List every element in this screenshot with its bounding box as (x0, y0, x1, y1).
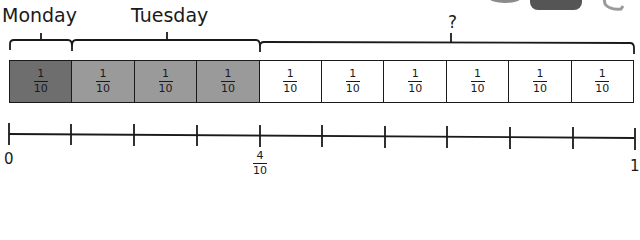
denominator: 10 (533, 83, 547, 95)
numerator: 1 (599, 68, 606, 80)
bar-cell-unknown: 110 (572, 61, 633, 102)
fraction-bar: 110 110 110 110 110 110 110 110 110 110 (9, 60, 634, 103)
denominator: 10 (159, 83, 173, 95)
bar-cell-tuesday: 110 (135, 61, 197, 102)
number-line-end-label: 1 (630, 157, 640, 175)
denominator: 10 (96, 83, 110, 95)
numerator: 1 (536, 68, 543, 80)
denominator: 10 (595, 83, 609, 95)
denominator: 10 (408, 83, 422, 95)
bar-cell-monday: 110 (10, 61, 72, 102)
numerator: 1 (37, 68, 44, 80)
numerator: 1 (162, 68, 169, 80)
bar-cell-unknown: 110 (447, 61, 509, 102)
bar-cell-unknown: 110 (260, 61, 322, 102)
number-line-mid-label: 4 10 (253, 150, 267, 177)
denominator: 10 (253, 165, 267, 177)
numerator: 4 (257, 150, 264, 162)
denominator: 10 (34, 83, 48, 95)
bar-cell-tuesday: 110 (72, 61, 134, 102)
denominator: 10 (283, 83, 297, 95)
denominator: 10 (346, 83, 360, 95)
numerator: 1 (412, 68, 419, 80)
numerator: 1 (224, 68, 231, 80)
bar-cell-unknown: 110 (384, 61, 446, 102)
denominator: 10 (221, 83, 235, 95)
number-line-start-label: 0 (4, 150, 14, 168)
denominator: 10 (471, 83, 485, 95)
numerator: 1 (349, 68, 356, 80)
bar-cell-tuesday: 110 (197, 61, 259, 102)
bar-cell-unknown: 110 (509, 61, 571, 102)
numerator: 1 (474, 68, 481, 80)
bar-cell-unknown: 110 (322, 61, 384, 102)
numerator: 1 (287, 68, 294, 80)
numerator: 1 (100, 68, 107, 80)
